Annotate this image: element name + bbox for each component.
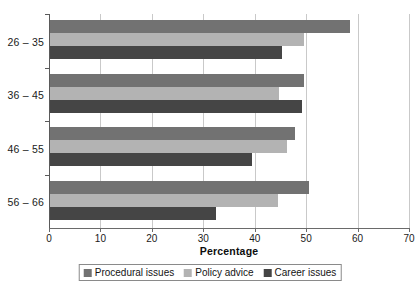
legend-item-procedural-issues: Procedural issues [84, 267, 174, 278]
legend-swatch-icon [264, 269, 272, 277]
x-tick-mark [306, 228, 307, 232]
y-category-label: 46 – 55 [0, 139, 44, 157]
x-tick-mark [255, 228, 256, 232]
bar [49, 127, 295, 140]
x-tick-label: 0 [46, 233, 52, 244]
bar [49, 140, 287, 153]
gridline [358, 14, 359, 228]
x-tick-mark [203, 228, 204, 232]
bar [49, 46, 282, 59]
y-category-label-text: 26 – 35 [8, 36, 44, 48]
bar [49, 33, 304, 46]
bar [49, 153, 252, 166]
gridline [409, 14, 410, 228]
x-tick-label: 30 [198, 233, 209, 244]
chart-legend: Procedural issues Policy advice Career i… [79, 264, 342, 281]
x-tick-label: 70 [403, 233, 414, 244]
y-tick-mark [45, 121, 49, 122]
bar [49, 100, 302, 113]
legend-label: Procedural issues [95, 267, 174, 278]
y-category-label-text: 46 – 55 [8, 143, 44, 155]
y-axis-line [49, 14, 50, 228]
y-category-label: 26 – 35 [0, 32, 44, 50]
x-tick-label: 40 [249, 233, 260, 244]
x-tick-mark [49, 228, 50, 232]
legend-swatch-icon [84, 269, 92, 277]
bar [49, 181, 309, 194]
y-category-label: 36 – 45 [0, 85, 44, 103]
bar [49, 20, 350, 33]
x-tick-mark [152, 228, 153, 232]
x-tick-label: 10 [95, 233, 106, 244]
legend-item-policy-advice: Policy advice [184, 267, 253, 278]
plot-area [49, 14, 409, 228]
x-axis-line [49, 228, 409, 229]
legend-label: Policy advice [195, 267, 253, 278]
y-category-label-text: 56 – 66 [8, 196, 44, 208]
legend-swatch-icon [184, 269, 192, 277]
x-tick-label: 50 [301, 233, 312, 244]
x-tick-mark [409, 228, 410, 232]
gridline [306, 14, 307, 228]
x-tick-mark [358, 228, 359, 232]
legend-item-career-issues: Career issues [264, 267, 337, 278]
x-axis-title: Percentage [49, 245, 409, 257]
x-tick-mark [100, 228, 101, 232]
bar [49, 87, 279, 100]
y-tick-mark [45, 175, 49, 176]
x-tick-label: 60 [352, 233, 363, 244]
bar [49, 207, 216, 220]
bar-chart: 010203040506070 26 – 3536 – 4546 – 5556 … [0, 0, 420, 288]
y-tick-mark [45, 14, 49, 15]
x-tick-label: 20 [146, 233, 157, 244]
legend-label: Career issues [275, 267, 337, 278]
y-tick-mark [45, 68, 49, 69]
bar [49, 194, 278, 207]
y-category-label: 56 – 66 [0, 192, 44, 210]
bar [49, 74, 304, 87]
y-category-label-text: 36 – 45 [8, 89, 44, 101]
